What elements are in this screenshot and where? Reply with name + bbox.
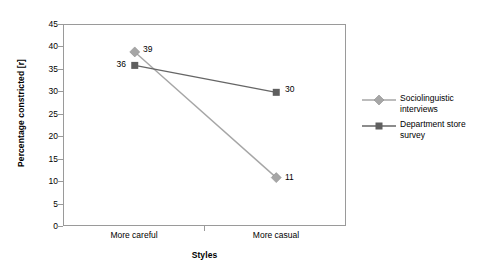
legend-key-department-store-survey bbox=[362, 119, 396, 133]
y-tick-label: 5 bbox=[36, 199, 58, 209]
plot-svg bbox=[64, 25, 347, 227]
y-tick-label: 40 bbox=[36, 41, 58, 51]
legend-label-line1: Department store bbox=[400, 119, 466, 129]
data-label-dept-more-careful: 36 bbox=[117, 59, 126, 69]
y-tick-label: 35 bbox=[36, 64, 58, 74]
y-tick-mark bbox=[57, 226, 63, 227]
y-tick-label: 15 bbox=[36, 154, 58, 164]
legend-label-line1: Sociolinguistic bbox=[400, 93, 454, 103]
y-tick-label: 25 bbox=[36, 109, 58, 119]
series-line-sociolinguistic-interviews bbox=[135, 52, 277, 178]
x-axis-title: Styles bbox=[63, 250, 346, 260]
chart-figure: Percentage constricted [r] 0 5 10 15 20 … bbox=[0, 0, 489, 273]
plot-area bbox=[63, 24, 346, 226]
data-label-socio-more-casual: 11 bbox=[285, 172, 294, 182]
data-label-dept-more-casual: 30 bbox=[285, 84, 294, 94]
y-tick-label: 20 bbox=[36, 131, 58, 141]
legend-label-sociolinguistic-interviews: Sociolinguistic interviews bbox=[396, 93, 489, 115]
y-tick-label: 45 bbox=[36, 19, 58, 29]
data-point-marker-square bbox=[273, 89, 280, 96]
y-tick-label: 10 bbox=[36, 176, 58, 186]
legend-label-line2: interviews bbox=[400, 104, 438, 114]
y-tick-label: 30 bbox=[36, 86, 58, 96]
x-tick-label-more-careful: More careful bbox=[110, 230, 157, 240]
diamond-icon bbox=[362, 93, 396, 107]
legend-item-sociolinguistic-interviews: Sociolinguistic interviews bbox=[362, 93, 489, 115]
data-point-marker-square bbox=[131, 62, 138, 69]
y-axis-tick-labels: 0 5 10 15 20 25 30 35 40 45 bbox=[36, 24, 58, 226]
series-line-department-store-survey bbox=[135, 65, 277, 92]
x-axis-tick-labels: More careful More casual bbox=[63, 230, 346, 244]
legend-label-line2: survey bbox=[400, 130, 425, 140]
legend-key-sociolinguistic-interviews bbox=[362, 93, 396, 107]
legend-item-department-store-survey: Department store survey bbox=[362, 119, 489, 141]
chart-legend: Sociolinguistic interviews Department st… bbox=[362, 93, 489, 145]
legend-label-department-store-survey: Department store survey bbox=[396, 119, 489, 141]
y-axis-title: Percentage constricted [r] bbox=[14, 0, 28, 228]
y-tick-label: 0 bbox=[36, 221, 58, 231]
data-label-socio-more-careful: 39 bbox=[143, 44, 152, 54]
square-icon bbox=[362, 119, 396, 133]
x-tick-label-more-casual: More casual bbox=[253, 230, 299, 240]
